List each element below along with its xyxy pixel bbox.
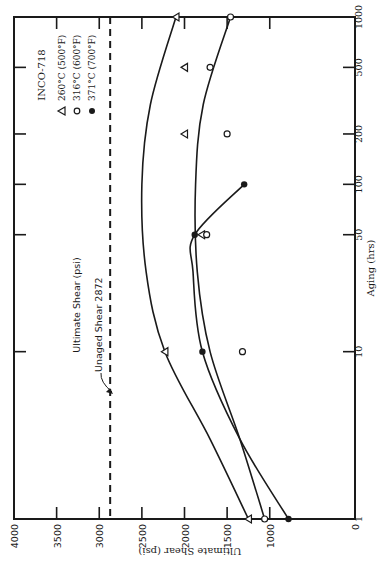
fit-curve-series-0 — [142, 17, 249, 519]
inner-shear-label: Ultimate Shear (psi) — [71, 257, 82, 352]
legend-label-316c: 316°C (600°F) — [72, 35, 82, 101]
triangle-marker-icon — [245, 515, 252, 523]
aging-tick-label: 1000 — [353, 5, 364, 29]
legend-title: INCO-718 — [36, 49, 47, 100]
legend-label-371c: 371°C (700°F) — [87, 35, 97, 101]
shear-vs-aging-chart: 01000150020002500300035004000 1105010020… — [0, 0, 380, 565]
aging-axis-label: Aging (hrs) — [365, 239, 376, 297]
unaged-shear-annotation: Unaged Shear 2872 — [93, 277, 104, 372]
shear-tick-label: 1500 — [222, 524, 233, 548]
shear-tick-label: 0 — [350, 524, 361, 530]
aging-tick-label: 200 — [353, 125, 364, 143]
shear-tick-label: 3500 — [52, 524, 63, 548]
filled-circle-marker-icon — [241, 181, 247, 187]
legend: INCO-718 260°C (500°F) 316°C (600°F) 371… — [36, 35, 97, 115]
aging-tick-label: 50 — [353, 229, 364, 241]
open-circle-marker-icon — [207, 64, 213, 70]
triangle-marker-icon — [181, 63, 188, 71]
shear-tick-label: 3000 — [94, 524, 105, 548]
filled-circle-marker-icon — [285, 516, 291, 522]
aging-tick-label: 10 — [353, 346, 364, 358]
triangle-marker-icon — [181, 130, 188, 138]
open-circle-marker-icon — [204, 232, 210, 238]
open-circle-marker-icon — [224, 131, 230, 137]
open-circle-marker-icon — [239, 349, 245, 355]
shear-tick-label: 4000 — [9, 524, 20, 548]
legend-filled-circle-icon — [89, 108, 95, 114]
open-circle-marker-icon — [262, 516, 268, 522]
fit-curve-series-1 — [195, 17, 265, 519]
aging-tick-label: 1 — [353, 516, 364, 522]
legend-open-circle-icon — [74, 108, 80, 114]
legend-triangle-icon — [58, 107, 65, 115]
open-circle-marker-icon — [228, 14, 234, 20]
data-markers — [161, 13, 291, 523]
shear-axis-label: Ultimate Shear (psi) — [138, 546, 241, 557]
filled-circle-marker-icon — [192, 232, 198, 238]
aging-tick-label: 100 — [353, 175, 364, 193]
aging-tick-label: 500 — [353, 58, 364, 76]
fit-curves — [142, 17, 289, 519]
shear-tick-label: 2500 — [137, 524, 148, 548]
filled-circle-marker-icon — [199, 348, 205, 354]
legend-label-260c: 260°C (500°F) — [57, 35, 67, 101]
shear-tick-label: 2000 — [180, 524, 191, 548]
shear-tick-label: 1000 — [265, 524, 276, 548]
